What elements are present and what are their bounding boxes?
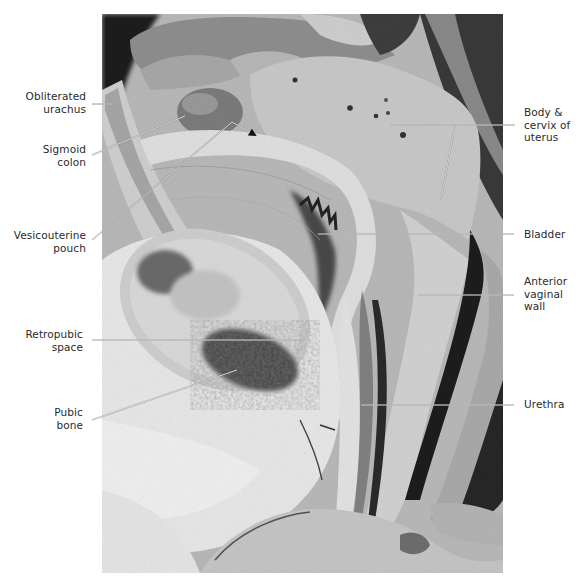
anatomy-figure: Obliterated urachus Sigmoid colon Vesico…	[0, 0, 578, 585]
label-pubic-bone: Pubic bone	[0, 406, 83, 431]
label-line: vaginal	[524, 288, 578, 301]
label-line: cervix of	[524, 119, 578, 132]
pelvis-section-photo	[102, 14, 503, 573]
label-line: wall	[524, 300, 578, 313]
label-line: uterus	[524, 131, 578, 144]
label-line: Sigmoid	[6, 143, 86, 156]
label-line: Anterior	[524, 275, 578, 288]
label-sigmoid-colon: Sigmoid colon	[6, 143, 86, 168]
label-line: Bladder	[524, 228, 578, 241]
label-line: Vesicouterine	[0, 229, 86, 242]
label-line: urachus	[6, 103, 86, 116]
label-body-cervix-uterus: Body & cervix of uterus	[524, 106, 578, 144]
label-line: Retropubic	[0, 328, 83, 341]
label-urethra: Urethra	[524, 398, 578, 411]
label-line: space	[0, 341, 83, 354]
label-vesicouterine-pouch: Vesicouterine pouch	[0, 229, 86, 254]
label-anterior-vaginal-wall: Anterior vaginal wall	[524, 275, 578, 313]
label-line: Body &	[524, 106, 578, 119]
label-bladder: Bladder	[524, 228, 578, 241]
label-line: bone	[0, 419, 83, 432]
label-retropubic-space: Retropubic space	[0, 328, 83, 353]
label-line: Pubic	[0, 406, 83, 419]
label-line: pouch	[0, 242, 86, 255]
label-line: Obliterated	[6, 90, 86, 103]
label-line: colon	[6, 156, 86, 169]
label-line: Urethra	[524, 398, 578, 411]
label-obliterated-urachus: Obliterated urachus	[6, 90, 86, 115]
